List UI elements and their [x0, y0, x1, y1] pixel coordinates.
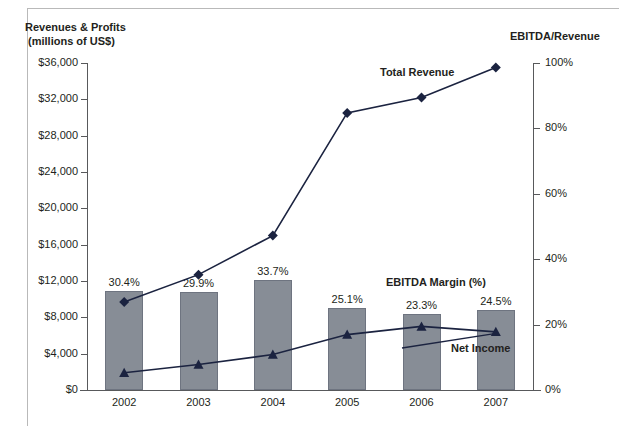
- total-revenue-line: [124, 68, 496, 302]
- data-point-marker: [119, 297, 129, 307]
- net-income-label: Net Income: [451, 342, 510, 354]
- chart-container: Revenues & Profits (millions of US$) EBI…: [0, 0, 621, 427]
- ebitda-margin-label: EBITDA Margin (%): [386, 276, 486, 288]
- data-point-marker: [342, 108, 352, 118]
- series-lines-layer: [0, 0, 621, 427]
- net-income-line: [124, 326, 496, 372]
- total-revenue-label: Total Revenue: [380, 66, 454, 78]
- data-point-marker: [194, 270, 204, 280]
- data-point-marker: [491, 63, 501, 73]
- net-income-markers: [119, 321, 501, 377]
- data-point-marker: [417, 93, 427, 103]
- data-point-marker: [268, 231, 278, 241]
- total-revenue-markers: [119, 63, 501, 307]
